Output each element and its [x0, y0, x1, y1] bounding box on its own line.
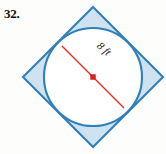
circle-inscribed-in-square-diagram — [0, 0, 166, 154]
center-point-marker — [90, 74, 96, 80]
figure-screenshot: 32. 8 ft — [0, 0, 166, 154]
